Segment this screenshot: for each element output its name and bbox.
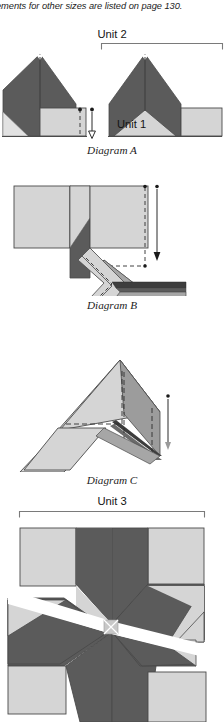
diagram-a-press-arrow — [89, 108, 96, 139]
diagram-b-figure — [0, 178, 224, 296]
diagram-c-caption: Diagram C — [0, 474, 224, 486]
unit-3-label: Unit 3 — [0, 495, 224, 507]
diagram-b-caption: Diagram B — [0, 299, 224, 311]
diagram-c-figure — [0, 352, 224, 472]
diagram-a-caption: Diagram A — [0, 144, 224, 156]
unit-2-label: Unit 2 — [0, 28, 224, 40]
page-root: ements for other sizes are listed on pag… — [0, 0, 224, 722]
unit-3-bracket — [0, 508, 224, 518]
intro-text: ements for other sizes are listed on pag… — [0, 1, 224, 11]
diagram-a-figure — [0, 48, 224, 144]
unit-3-star-block — [0, 520, 224, 722]
unit-1-label: Unit 1 — [117, 118, 146, 130]
diagram-a-left-unit — [2, 51, 87, 137]
